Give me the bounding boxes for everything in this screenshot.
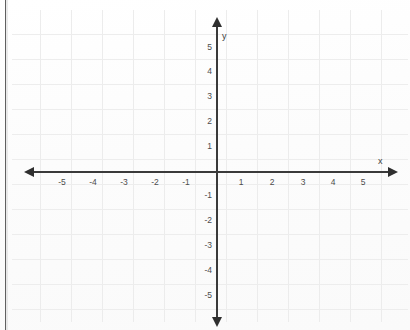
x-axis-tick-label: 1 (239, 178, 244, 187)
gridline-horizontal (12, 84, 408, 85)
gridline-vertical (288, 10, 289, 322)
gridline-horizontal (12, 259, 408, 260)
gridline-horizontal (12, 59, 408, 60)
y-axis-tick-label: 5 (198, 43, 212, 52)
y-axis-tick-label: -5 (198, 291, 212, 300)
gridline-horizontal (12, 34, 408, 35)
x-axis-tick-label: 4 (331, 178, 336, 187)
gridline-vertical (195, 10, 196, 322)
y-axis-tick-label: 4 (198, 67, 212, 76)
y-axis-top-arrowhead (212, 17, 222, 27)
gridline-vertical (40, 10, 41, 322)
x-axis-right-arrowhead (388, 167, 398, 177)
y-axis-bottom-arrowhead (212, 317, 222, 327)
y-axis-tick-label: -2 (198, 216, 212, 225)
y-axis-tick-label: 2 (198, 117, 212, 126)
y-axis-tick-label: -3 (198, 241, 212, 250)
y-axis-tick-label: -4 (198, 266, 212, 275)
x-axis-tick-label: 2 (270, 178, 275, 187)
gridline-vertical (381, 10, 382, 322)
gridline-vertical (164, 10, 165, 322)
x-axis-tick-label: -2 (151, 178, 159, 187)
gridline-vertical (133, 10, 134, 322)
gridline-horizontal (12, 109, 408, 110)
gridline-horizontal (12, 234, 408, 235)
gridline-vertical (319, 10, 320, 322)
gridline-horizontal (12, 284, 408, 285)
x-axis-label: x (378, 157, 383, 166)
y-axis-tick-label: -1 (198, 191, 212, 200)
gridline-vertical (71, 10, 72, 322)
x-axis-tick-label: -3 (120, 178, 128, 187)
x-axis-tick-label: 3 (301, 178, 306, 187)
y-axis-label: y (222, 32, 227, 41)
coordinate-plane-graph: x y -5-4-3-2-11234554321-1-2-3-4-5 (0, 0, 410, 330)
x-axis-tick-label: -5 (58, 178, 66, 187)
gridline-horizontal (12, 309, 408, 310)
y-axis-tick-label: 3 (198, 92, 212, 101)
x-axis-tick-label: 5 (361, 178, 366, 187)
gridline-vertical (226, 10, 227, 322)
gridline-horizontal (12, 209, 408, 210)
y-axis-tick-label: 1 (198, 142, 212, 151)
gridline-horizontal (12, 134, 408, 135)
gridline-horizontal (12, 184, 408, 185)
y-axis-line (216, 26, 218, 318)
gridline-vertical (102, 10, 103, 322)
gridline-vertical (257, 10, 258, 322)
x-axis-left-arrowhead (24, 167, 34, 177)
x-axis-tick-label: -1 (182, 178, 190, 187)
gridline-horizontal (12, 159, 408, 160)
x-axis-tick-label: -4 (89, 178, 97, 187)
gridline-vertical (350, 10, 351, 322)
x-axis-line (33, 171, 389, 173)
